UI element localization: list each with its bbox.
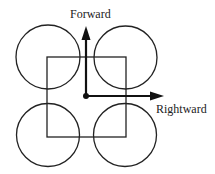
wheel-bottom-left: [17, 104, 80, 167]
rightward-label: Rightward: [156, 102, 207, 116]
wheel-bottom-right: [94, 104, 157, 167]
robot-axes-diagram: Forward Rightward: [0, 0, 215, 174]
rightward-arrowhead-icon: [150, 92, 164, 101]
origin-dot: [83, 93, 89, 99]
forward-label: Forward: [70, 7, 111, 21]
forward-arrowhead-icon: [82, 26, 91, 40]
